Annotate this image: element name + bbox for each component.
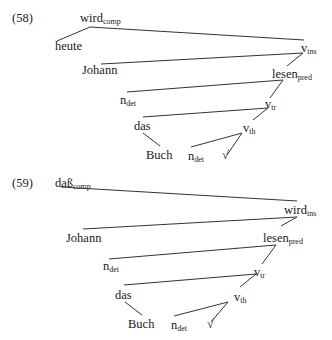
node-v-tr: vtr — [254, 266, 265, 280]
tree-59-edges — [61, 187, 297, 322]
node-johann: Johann — [82, 64, 117, 77]
node-v-th: vth — [243, 122, 255, 136]
node-n-det-2: ndet — [171, 319, 187, 333]
example-number: (58) — [12, 12, 33, 25]
node-buch: Buch — [146, 149, 172, 162]
node-dass-comp: daßcomp — [55, 177, 91, 191]
node-buch: Buch — [128, 318, 154, 331]
node-das: das — [115, 289, 132, 302]
tree-edges — [0, 0, 332, 340]
node-n-det-2: ndet — [188, 150, 204, 164]
node-v-tr: vtr — [265, 98, 276, 112]
node-n-det: ndet — [103, 260, 119, 274]
node-lesen-pred: lesenpred — [263, 232, 303, 246]
node-das: das — [134, 120, 151, 133]
tree-58-edges — [57, 27, 304, 155]
node-wird-tns: wirdtns — [284, 204, 316, 218]
node-lesen-pred: lesenpred — [272, 68, 312, 82]
node-heute: heute — [55, 40, 82, 53]
node-v-th: vth — [234, 291, 246, 305]
node-v-tns: vtns — [301, 42, 317, 56]
example-number: (59) — [12, 177, 33, 190]
node-johann: Johann — [66, 232, 101, 245]
node-root: √ — [222, 149, 229, 162]
node-wird-comp: wirdcomp — [80, 12, 121, 26]
node-n-det: ndet — [120, 94, 136, 108]
node-root: √ — [207, 318, 214, 331]
